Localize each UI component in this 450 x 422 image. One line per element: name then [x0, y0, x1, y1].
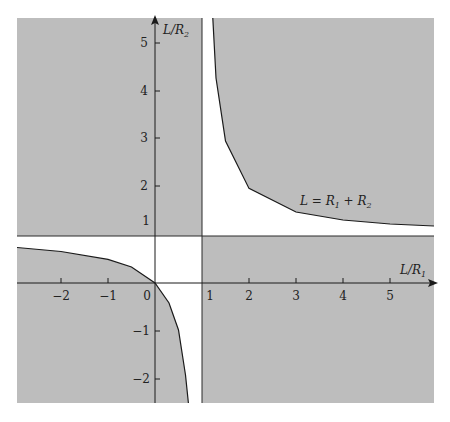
- x-tick-label: 5: [386, 289, 394, 303]
- y-tick-label: −2: [132, 372, 150, 386]
- x-tick-label: 4: [339, 289, 347, 303]
- y-tick-label: 2: [140, 179, 148, 193]
- hyperbola-region-chart: −2 −1 0 1 2 3 4 5 L/R1 5 4 3 2 1 −1 −2 L…: [0, 0, 450, 422]
- x-tick-label: −1: [99, 289, 117, 303]
- y-tick-label: −1: [132, 324, 150, 338]
- x-tick-label: −2: [52, 289, 70, 303]
- x-tick-label: 0: [143, 289, 151, 303]
- x-tick-label: 2: [245, 289, 253, 303]
- y-tick-label: 5: [140, 36, 148, 50]
- y-tick-label: 4: [140, 84, 148, 98]
- y-tick-label: 3: [140, 131, 148, 145]
- x-tick-label: 1: [206, 289, 214, 303]
- y-tick-label: 1: [142, 214, 150, 228]
- x-tick-label: 3: [292, 289, 300, 303]
- plot-area: [17, 18, 434, 403]
